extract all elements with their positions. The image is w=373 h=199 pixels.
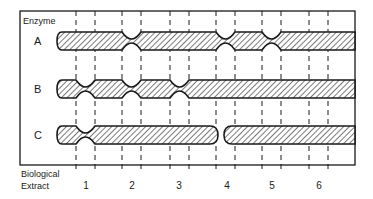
enzyme-b-label: B <box>34 83 41 95</box>
xaxis-label-line2: Extract <box>21 181 50 191</box>
enzyme-c-bar-left <box>57 126 218 144</box>
enzyme-c-label: C <box>34 129 42 141</box>
extract-label-5: 5 <box>269 180 275 191</box>
extract-label-3: 3 <box>176 180 182 191</box>
enzyme-heading: Enzyme <box>23 16 56 26</box>
xaxis-label-line1: Biological <box>21 169 60 179</box>
enzyme-b-bar <box>57 80 355 98</box>
enzyme-a-bar <box>57 32 355 50</box>
enzyme-extract-diagram: Enzyme A B C Biological Extract 1 2 3 4 … <box>0 0 373 199</box>
extract-label-2: 2 <box>129 180 135 191</box>
extract-label-4: 4 <box>224 180 230 191</box>
enzyme-c-bar-right <box>224 126 355 144</box>
extract-label-1: 1 <box>83 180 89 191</box>
enzyme-a-label: A <box>34 35 42 47</box>
extract-label-6: 6 <box>316 180 322 191</box>
